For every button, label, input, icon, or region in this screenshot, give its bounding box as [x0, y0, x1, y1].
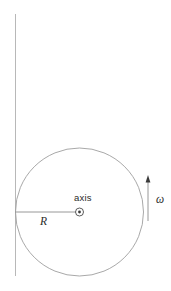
diagram-canvas [0, 0, 171, 291]
axis-label: axis [74, 193, 92, 203]
angular-velocity-label: ω [156, 194, 164, 206]
axis-marker-icon [76, 208, 84, 216]
angular-velocity-arrow-icon [146, 175, 151, 221]
physics-diagram-figure: axis R ω [0, 0, 171, 291]
radius-label: R [40, 216, 47, 228]
